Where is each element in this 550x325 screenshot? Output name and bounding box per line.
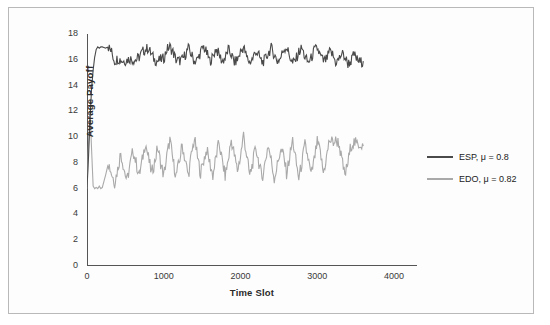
y-tick-label: 10 [54, 131, 78, 141]
legend-swatch-esp [427, 156, 453, 158]
chart-legend: ESP, μ = 0.8 EDO, μ = 0.82 [427, 146, 537, 190]
y-tick-label: 0 [54, 260, 78, 270]
y-tick-label: 16 [54, 54, 78, 64]
figure-container: Average Payoff Time Slot 024681012141618… [0, 0, 550, 325]
legend-label-edo: EDO, μ = 0.82 [459, 174, 516, 184]
plot-area: Average Payoff Time Slot 024681012141618… [87, 34, 417, 266]
y-tick-label: 8 [54, 157, 78, 167]
y-tick-label: 12 [54, 105, 78, 115]
x-tick-label: 2000 [220, 271, 260, 281]
x-tick-label: 0 [67, 271, 107, 281]
legend-label-esp: ESP, μ = 0.8 [459, 152, 509, 162]
y-tick-label: 4 [54, 208, 78, 218]
y-tick-label: 18 [54, 28, 78, 38]
y-tick-label: 2 [54, 234, 78, 244]
x-axis-title: Time Slot [87, 287, 417, 298]
legend-swatch-edo [427, 178, 453, 180]
y-axis-title: Average Payoff [84, 42, 95, 162]
x-tick-label: 3000 [297, 271, 337, 281]
figure-frame: Average Payoff Time Slot 024681012141618… [8, 7, 534, 314]
x-tick-label: 1000 [144, 271, 184, 281]
y-tick-label: 14 [54, 80, 78, 90]
legend-item-esp: ESP, μ = 0.8 [427, 146, 537, 168]
series-line-edo [87, 111, 363, 188]
chart-svg [87, 34, 417, 266]
legend-item-edo: EDO, μ = 0.82 [427, 168, 537, 190]
series-line-esp [87, 43, 363, 189]
x-tick-label: 4000 [374, 271, 414, 281]
y-tick-label: 6 [54, 183, 78, 193]
